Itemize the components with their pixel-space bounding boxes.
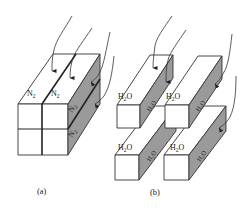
panel-b: H2O H₂O H2O H₂O H2O H₂O H2O H₂O bbox=[115, 16, 236, 197]
caption-b: (b) bbox=[150, 187, 160, 197]
panel-a: N2 N2 N2 N2 (a) bbox=[18, 16, 114, 196]
flow-channel-diagram: N2 N2 N2 N2 (a) H2O H₂O H2O H₂O bbox=[0, 0, 248, 211]
caption-a: (a) bbox=[37, 186, 47, 196]
